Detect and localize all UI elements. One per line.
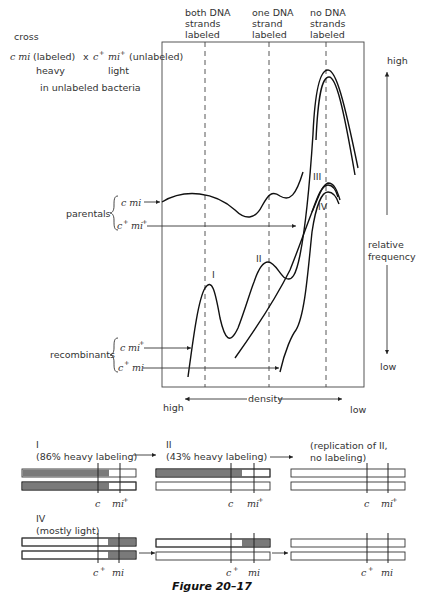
svg-text:(43% heavy labeling): (43% heavy labeling) — [166, 451, 267, 462]
curve-peak-I — [188, 262, 268, 377]
svg-text:labeled: labeled — [310, 29, 345, 40]
svg-text:+: + — [368, 565, 373, 573]
svg-text:mi: mi — [108, 51, 120, 62]
svg-text:no labeling): no labeling) — [310, 452, 366, 463]
panel-I: I (86% heavy labeling) c mi + — [22, 439, 137, 509]
y-label-1: relative — [368, 239, 404, 250]
peak-label-II: II — [256, 253, 262, 264]
recombinant-c: c — [120, 342, 126, 353]
svg-text:+: + — [120, 49, 125, 57]
column-label-none: no DNA strands labeled — [310, 7, 346, 40]
svg-text:strand: strand — [252, 18, 282, 29]
svg-text:no DNA: no DNA — [310, 7, 346, 18]
figure-20-17: cross c mi (labeled) x c + mi + (unlabel… — [0, 0, 421, 594]
panel-IV-replication-1: c + mi — [156, 533, 270, 578]
recombinants-label: recombinants — [50, 349, 115, 360]
y-high-label: high — [387, 55, 408, 66]
context-label: in unlabeled bacteria — [40, 82, 141, 93]
svg-text:both DNA: both DNA — [185, 7, 231, 18]
svg-text:+: + — [139, 339, 144, 347]
y-label-2: frequency — [368, 251, 416, 262]
plot-frame — [162, 42, 364, 387]
svg-text:c: c — [228, 498, 234, 509]
figure-caption: Figure 20–17 — [172, 580, 252, 593]
x-low-label: low — [350, 404, 366, 415]
svg-text:+: + — [392, 496, 397, 504]
y-low-label: low — [380, 361, 396, 372]
x-high-label: high — [163, 402, 184, 413]
recombinant-mi2: mi — [132, 362, 144, 373]
column-label-both: both DNA strands labeled — [185, 7, 231, 40]
svg-text:(mostly light): (mostly light) — [36, 525, 100, 536]
curve-parental-cmi — [162, 172, 303, 217]
svg-text:c: c — [95, 498, 101, 509]
svg-text:IV: IV — [36, 513, 46, 524]
svg-text:I: I — [36, 439, 39, 450]
svg-text:one DNA: one DNA — [252, 7, 294, 18]
parental-cmi: c mi — [121, 197, 141, 208]
svg-text:(replication of II,: (replication of II, — [310, 440, 388, 451]
svg-text:labeled: labeled — [252, 29, 287, 40]
peak-label-IV: IV — [318, 201, 328, 212]
svg-text:+: + — [258, 496, 263, 504]
peak-label-I: I — [212, 269, 215, 280]
svg-text:c: c — [361, 567, 367, 578]
cross-line: c mi (labeled) x c + mi + (unlabeled) — [10, 49, 183, 62]
parentals-label: parentals — [66, 208, 111, 219]
panel-III: (replication of II, no labeling) c mi + — [291, 440, 405, 509]
panel-II: II (43% heavy labeling) c mi + — [156, 439, 270, 509]
svg-text:+: + — [124, 359, 129, 367]
svg-text:strands: strands — [185, 18, 220, 29]
panel-IV: IV (mostly light) c + mi — [22, 513, 136, 578]
svg-text:(labeled): (labeled) — [33, 51, 75, 62]
heavy-label: heavy — [36, 65, 65, 76]
peak-label-III: III — [313, 171, 321, 182]
svg-text:(86% heavy labeling): (86% heavy labeling) — [36, 451, 137, 462]
svg-text:c mi: c mi — [10, 51, 30, 62]
svg-text:+: + — [142, 218, 147, 226]
svg-text:+: + — [99, 49, 104, 57]
svg-text:+: + — [123, 496, 128, 504]
svg-text:II: II — [166, 439, 172, 450]
curve-peak-II — [268, 134, 313, 279]
cross-label: cross — [14, 31, 39, 42]
svg-text:+: + — [100, 565, 105, 573]
svg-text:x: x — [83, 51, 89, 62]
svg-text:(unlabeled): (unlabeled) — [129, 51, 183, 62]
svg-text:+: + — [123, 218, 128, 226]
svg-text:mi: mi — [381, 567, 393, 578]
svg-text:+: + — [233, 565, 238, 573]
light-label: light — [108, 65, 129, 76]
svg-text:mi: mi — [112, 567, 124, 578]
panel-IV-replication-2: c + mi — [291, 533, 405, 578]
x-axis-label: density — [248, 393, 283, 404]
svg-text:mi: mi — [248, 567, 260, 578]
svg-text:c: c — [364, 498, 370, 509]
svg-text:c: c — [93, 567, 99, 578]
svg-text:c: c — [226, 567, 232, 578]
svg-text:strands: strands — [310, 18, 345, 29]
column-label-one: one DNA strand labeled — [252, 7, 294, 40]
svg-text:labeled: labeled — [185, 29, 220, 40]
